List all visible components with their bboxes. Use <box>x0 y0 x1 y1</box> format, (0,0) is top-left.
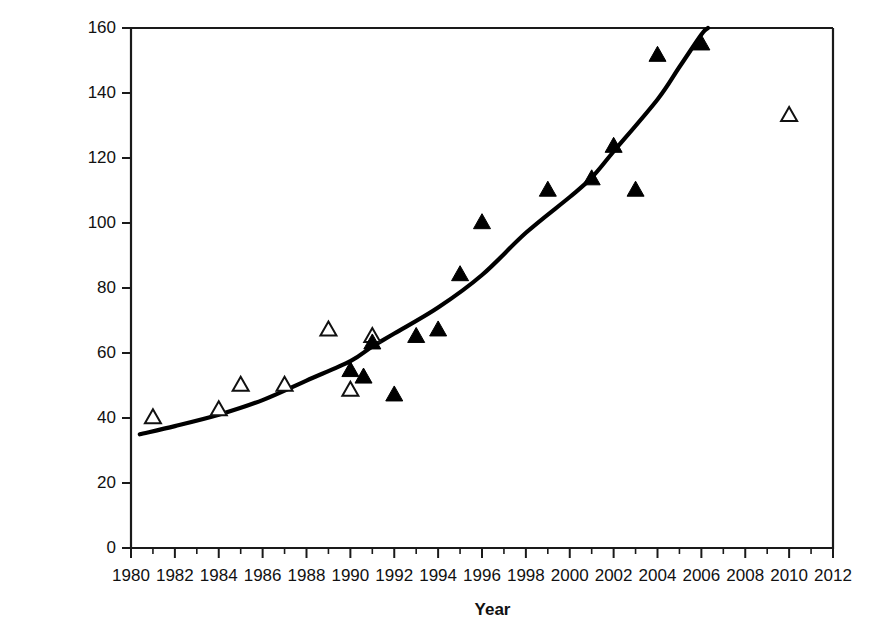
y-axis-tick-labels: 020406080100120140160 <box>88 18 116 557</box>
x-tick-label: 1994 <box>419 566 457 585</box>
x-tick-label: 2002 <box>595 566 633 585</box>
open-triangle-marker <box>211 401 227 415</box>
y-tick-label: 60 <box>97 343 116 362</box>
x-tick-label: 2006 <box>682 566 720 585</box>
plot-area: 020406080100120140160 198019821984198619… <box>0 0 875 637</box>
open-triangle-marker <box>781 107 797 121</box>
y-tick-label: 20 <box>97 473 116 492</box>
filled-triangle-marker <box>649 46 666 61</box>
open-triangle-marker <box>145 409 161 423</box>
filled-triangle-marker <box>408 327 425 342</box>
population-size-scatter-chart: Population size (thousands) Year 0204060… <box>0 0 875 637</box>
x-tick-label: 2008 <box>726 566 764 585</box>
x-tick-label: 1992 <box>375 566 413 585</box>
exponential-trend-line <box>140 28 708 434</box>
y-tick-label: 140 <box>88 83 116 102</box>
frame-lines <box>131 28 833 548</box>
y-tick-label: 80 <box>97 278 116 297</box>
filled-triangle-marker <box>386 386 403 401</box>
x-tick-label: 2010 <box>770 566 808 585</box>
y-tick-label: 0 <box>107 538 116 557</box>
open-triangle-marker <box>320 322 336 336</box>
y-tick-label: 100 <box>88 213 116 232</box>
x-tick-label: 1984 <box>200 566 238 585</box>
x-tick-label: 1998 <box>507 566 545 585</box>
axis-frame <box>131 28 833 548</box>
x-tick-label: 2012 <box>814 566 852 585</box>
x-tick-label: 1996 <box>463 566 501 585</box>
filled-triangle-marker <box>627 181 644 196</box>
filled-triangle-marker <box>430 321 447 336</box>
x-tick-label: 1988 <box>288 566 326 585</box>
y-tick-label: 40 <box>97 408 116 427</box>
open-triangle-marker <box>233 377 249 391</box>
x-tick-label: 1982 <box>156 566 194 585</box>
data-markers <box>145 35 797 423</box>
x-tick-label: 2004 <box>639 566 677 585</box>
open-triangle-marker <box>277 377 293 391</box>
open-triangle-marker <box>342 382 358 396</box>
filled-triangle-marker <box>452 266 469 281</box>
x-tick-label: 1986 <box>244 566 282 585</box>
y-tick-label: 120 <box>88 148 116 167</box>
filled-triangle-marker <box>474 214 491 229</box>
x-tick-label: 1990 <box>331 566 369 585</box>
x-tick-label: 1980 <box>112 566 150 585</box>
x-axis-tick-labels: 1980198219841986198819901992199419961998… <box>112 566 852 585</box>
filled-triangle-marker <box>539 181 556 196</box>
x-axis-ticks <box>131 548 833 558</box>
x-tick-label: 2000 <box>551 566 589 585</box>
y-axis-ticks <box>122 28 131 548</box>
y-tick-label: 160 <box>88 18 116 37</box>
